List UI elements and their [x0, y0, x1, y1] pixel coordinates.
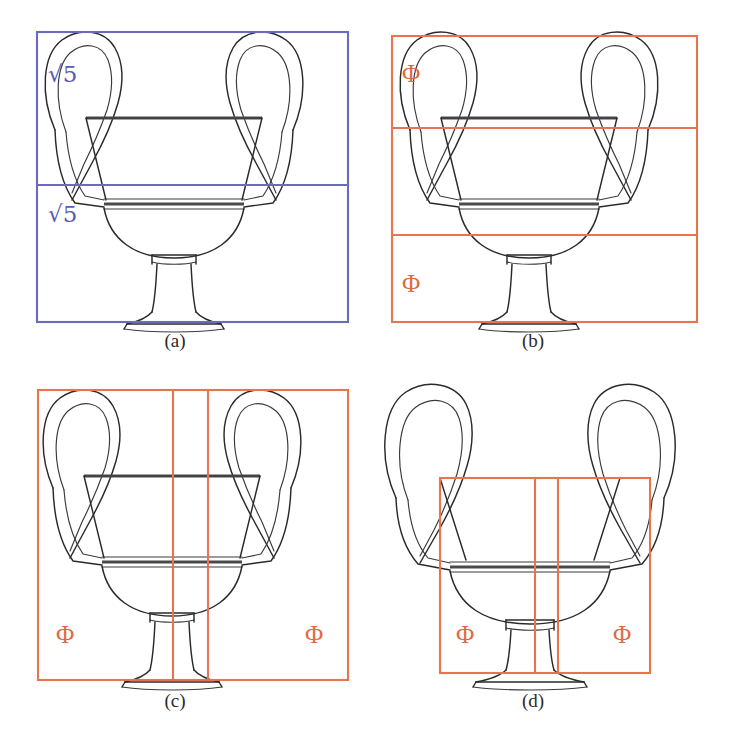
- label-a-sqrt5-bottom: √5: [48, 201, 77, 227]
- label-c-phi-right: Φ: [305, 621, 323, 648]
- panel-d-drawing: Φ Φ: [358, 358, 708, 698]
- figure-root: √5 √5 (a): [0, 0, 735, 737]
- vase-drawing-b: [400, 32, 658, 332]
- label-a-sqrt5-top: √5: [48, 61, 77, 87]
- panel-b: Φ Φ (b): [358, 0, 708, 368]
- label-d-phi-left: Φ: [456, 621, 474, 648]
- caption-b: (b): [358, 330, 708, 352]
- label-c-phi-left: Φ: [56, 621, 74, 648]
- panel-d: Φ Φ (d): [358, 358, 708, 726]
- overlay-c: [38, 390, 348, 680]
- overlay-rect-c: [38, 390, 348, 680]
- panel-c-drawing: Φ Φ: [0, 358, 350, 698]
- panel-b-drawing: Φ Φ: [358, 0, 708, 340]
- panel-a: √5 √5 (a): [0, 0, 350, 368]
- caption-a: (a): [0, 330, 350, 352]
- caption-c: (c): [0, 690, 350, 712]
- caption-d: (d): [358, 690, 708, 712]
- labels-a: √5 √5: [48, 61, 77, 227]
- vase-drawing-d: [385, 384, 675, 690]
- label-b-phi-top: Φ: [402, 60, 420, 87]
- panel-c: Φ Φ (c): [0, 358, 350, 726]
- label-d-phi-right: Φ: [613, 621, 631, 648]
- vase-drawing-a: [45, 32, 303, 332]
- label-b-phi-bottom: Φ: [402, 270, 420, 297]
- labels-d: Φ Φ: [456, 621, 631, 648]
- panel-a-drawing: √5 √5: [0, 0, 350, 340]
